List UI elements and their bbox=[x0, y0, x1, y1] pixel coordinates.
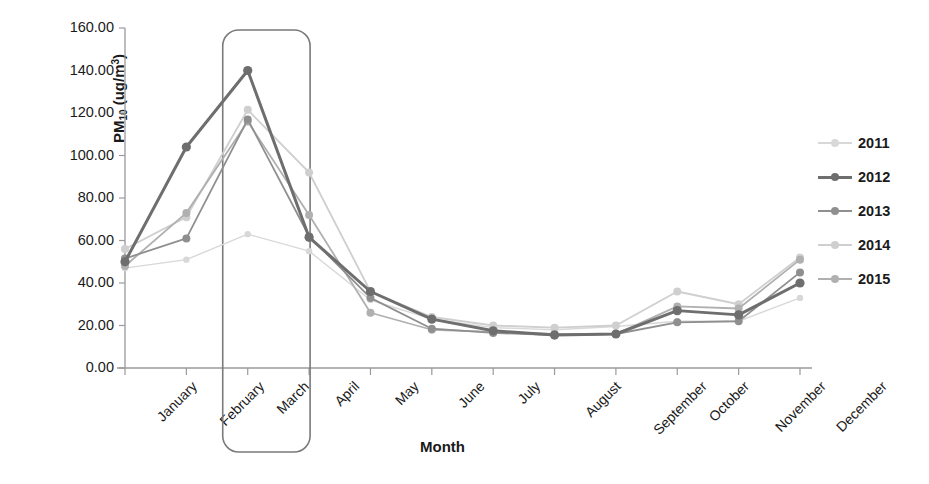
data-point bbox=[244, 106, 252, 114]
series-line-2011 bbox=[125, 234, 800, 330]
data-point bbox=[797, 295, 803, 301]
data-point bbox=[673, 318, 681, 326]
data-point bbox=[182, 209, 190, 217]
data-point bbox=[121, 245, 129, 253]
march-highlight-box bbox=[223, 30, 310, 452]
data-point bbox=[795, 278, 804, 287]
data-point bbox=[796, 256, 804, 264]
data-point bbox=[305, 211, 313, 219]
series-line-2014 bbox=[125, 110, 800, 328]
data-point bbox=[182, 142, 191, 151]
series-line-2013 bbox=[125, 119, 800, 335]
legend-item-2014[interactable]: 2014 bbox=[818, 228, 928, 262]
data-point bbox=[611, 329, 620, 338]
data-point bbox=[612, 322, 620, 330]
legend-label: 2013 bbox=[858, 203, 890, 219]
legend-marker-icon bbox=[831, 173, 839, 181]
data-point bbox=[120, 257, 129, 266]
legend-swatch-2011 bbox=[818, 136, 852, 150]
data-point bbox=[306, 248, 312, 254]
legend-label: 2012 bbox=[858, 169, 890, 185]
legend-item-2011[interactable]: 2011 bbox=[818, 126, 928, 160]
legend-label: 2011 bbox=[858, 135, 889, 151]
legend-item-2015[interactable]: 2015 bbox=[818, 262, 928, 296]
legend-label: 2014 bbox=[858, 237, 890, 253]
data-point bbox=[366, 287, 375, 296]
series-2011 bbox=[122, 231, 803, 333]
legend-marker-icon bbox=[831, 241, 839, 249]
data-point bbox=[673, 306, 682, 315]
legend-swatch-2015 bbox=[818, 272, 852, 286]
data-point bbox=[304, 233, 313, 242]
data-point bbox=[673, 288, 681, 296]
plot-area bbox=[0, 0, 929, 484]
data-point bbox=[366, 309, 374, 317]
data-point bbox=[550, 330, 559, 339]
legend-swatch-2014 bbox=[818, 238, 852, 252]
data-point bbox=[244, 115, 252, 123]
data-point bbox=[183, 256, 189, 262]
legend-marker-icon bbox=[831, 139, 839, 147]
legend-label: 2015 bbox=[858, 271, 890, 287]
data-point bbox=[243, 66, 252, 75]
legend-marker-icon bbox=[831, 207, 839, 215]
series-line-2015 bbox=[125, 122, 800, 335]
legend-swatch-2012 bbox=[818, 170, 852, 184]
data-point bbox=[245, 231, 251, 237]
legend-marker-icon bbox=[831, 275, 839, 283]
data-point bbox=[305, 169, 313, 177]
data-point bbox=[796, 268, 804, 276]
legend-swatch-2013 bbox=[818, 204, 852, 218]
legend-item-2013[interactable]: 2013 bbox=[818, 194, 928, 228]
data-point bbox=[428, 325, 436, 333]
chart-legend: 20112012201320142015 bbox=[818, 126, 928, 296]
legend-item-2012[interactable]: 2012 bbox=[818, 160, 928, 194]
data-point bbox=[734, 310, 743, 319]
data-point bbox=[489, 326, 498, 335]
chart-container: PM10 (ug/m3) 0.0020.0040.0060.0080.00100… bbox=[0, 0, 929, 484]
data-point bbox=[427, 315, 436, 324]
data-point bbox=[182, 234, 190, 242]
